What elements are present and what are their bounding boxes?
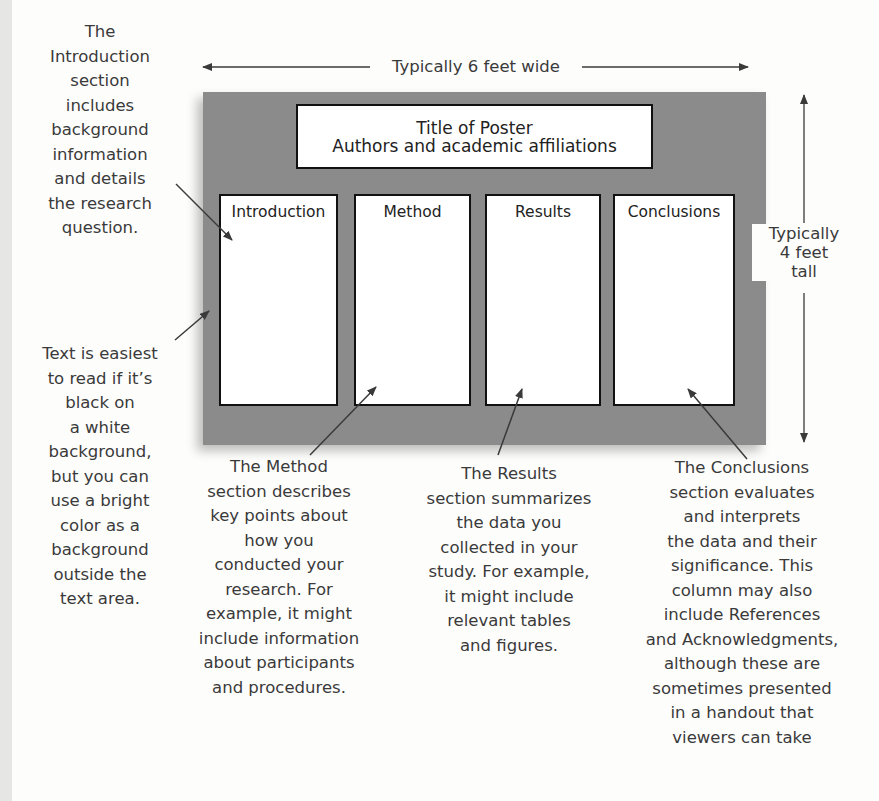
column-heading-method: Method [383, 203, 441, 221]
method-annotation: The Method section describes key points … [170, 455, 388, 700]
column-results: Results [485, 194, 601, 406]
width-dimension-label: Typically 6 feet wide [370, 57, 582, 76]
background-annotation: Text is easiest to read if it’s black on… [20, 342, 180, 612]
introduction-annotation: The Introduction section includes backgr… [28, 20, 172, 241]
conclusions-annotation: The Conclusions section evaluates and in… [622, 456, 862, 750]
poster-title-box: Title of Poster Authors and academic aff… [296, 104, 653, 169]
column-heading-conclusions: Conclusions [628, 203, 721, 221]
column-heading-results: Results [515, 203, 571, 221]
height-dimension-label: Typically 4 feet tall [752, 224, 856, 281]
page-edge-strip [0, 0, 12, 801]
column-heading-introduction: Introduction [232, 203, 326, 221]
column-introduction: Introduction [219, 194, 338, 406]
column-conclusions: Conclusions [613, 194, 735, 406]
poster-title: Title of Poster [416, 119, 533, 137]
poster-authors: Authors and academic affiliations [332, 137, 616, 155]
column-method: Method [354, 194, 471, 406]
results-annotation: The Results section summarizes the data … [400, 462, 618, 658]
